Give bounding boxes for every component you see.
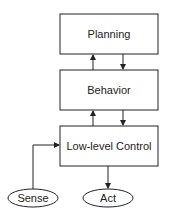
- node-planning-label: Planning: [88, 28, 131, 40]
- node-act-label: Act: [100, 192, 116, 204]
- node-planning: Planning: [60, 14, 158, 54]
- node-sense-label: Sense: [17, 192, 48, 204]
- node-behavior: Behavior: [60, 70, 158, 110]
- node-behavior-label: Behavior: [87, 84, 131, 96]
- edge-sense-to-control: [33, 145, 59, 189]
- node-low-level-control-label: Low-level Control: [67, 140, 152, 152]
- node-act: Act: [83, 189, 133, 207]
- architecture-diagram: Planning Behavior Low-level Control Sens…: [0, 0, 169, 223]
- node-sense: Sense: [8, 189, 58, 207]
- node-low-level-control: Low-level Control: [60, 126, 158, 166]
